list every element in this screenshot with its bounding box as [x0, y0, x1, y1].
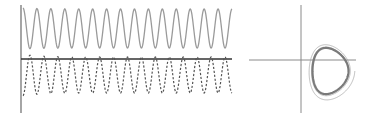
figure	[0, 0, 371, 120]
solid-series-line	[23, 8, 232, 49]
phase-portrait-panel	[249, 5, 356, 113]
dashed-series-line	[23, 55, 232, 96]
time-series-panel	[21, 5, 232, 113]
